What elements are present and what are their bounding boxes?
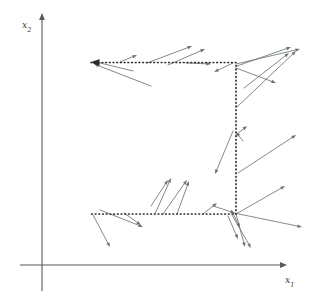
dotted-path-group [91,59,236,214]
gradient-arrow-head [168,178,171,183]
x-axis-arrowhead [280,262,287,268]
gradient-arrow-shaft [120,57,133,62]
gradient-arrow-head [271,80,276,83]
gradient-arrow-shaft [239,136,243,141]
gradient-arrow-head [291,135,296,139]
gradient-arrow [214,63,233,72]
gradient-arrow [203,203,217,214]
gradient-arrow-shaft [236,188,281,214]
gradient-arrows-group [92,46,302,248]
gradient-arrow-head [183,180,187,185]
gradient-arrow-shaft [147,48,188,63]
gradient-arrow-shaft [236,50,296,64]
gradient-arrow-shaft [213,206,231,212]
gradient-arrow-head [215,169,218,174]
y-axis-arrowhead [39,13,45,20]
gradient-arrow-head [187,46,192,49]
gradient-arrow-shaft [238,138,292,173]
gradient-arrow-head [214,68,219,72]
gradient-arrow [100,210,143,227]
gradient-arrow-head [132,55,137,58]
gradient-arrow-shaft [232,215,249,244]
gradient-arrow-head [235,234,238,239]
gradient-arrow-shaft [234,213,297,226]
gradient-arrow-head [242,242,245,247]
gradient-arrow-shaft [177,185,187,214]
gradient-arrow [244,53,289,88]
gradient-arrow [93,215,110,247]
gradient-arrow [147,46,192,63]
gradient-arrow-head [164,180,168,185]
x-axis-label: x1 [285,274,295,289]
feasible-region-boundary [91,63,236,215]
gradient-arrow-head [247,243,251,248]
gradient-arrow-head [200,49,205,52]
gradient-arrow-shaft [100,210,139,225]
gradient-arrow-shaft [186,63,206,64]
gradient-arrow [234,213,302,228]
gradient-arrow-shaft [237,49,287,66]
gradient-arrow-shaft [228,216,236,235]
gradient-arrow-shaft [203,206,213,214]
gradient-arrow [236,186,285,214]
gradient-arrow-head [286,47,291,50]
gradient-arrow [238,135,296,173]
gradient-arrow-shaft [96,62,133,71]
gradient-arrow-shaft [93,215,108,243]
y-axis-label: x2 [22,19,32,34]
gradient-arrow-head [280,186,285,190]
axes-group [20,13,287,291]
gradient-arrow-head [106,242,110,247]
gradient-arrow [213,206,235,213]
gradient-arrow-shaft [218,63,233,70]
gradient-arrow [215,131,233,174]
figure-root: x1 x2 [0,0,320,305]
gradient-arrow [228,216,238,239]
gradient-arrow [94,64,151,86]
gradient-arrow [151,180,168,206]
gradient-arrow [120,55,137,62]
gradient-arrow [237,51,296,107]
gradient-arrow-shaft [217,131,233,170]
vector-field-plot: x1 x2 [0,0,320,305]
gradient-arrow-head [297,224,302,227]
gradient-arrow-shaft [155,182,169,214]
gradient-arrow [236,132,243,141]
